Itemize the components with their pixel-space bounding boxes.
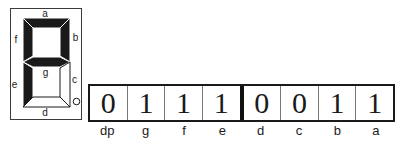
decimal-point (73, 98, 80, 105)
segment-g (23, 57, 70, 67)
bit-cell-a: 1 (356, 86, 393, 120)
bit-label-dp: dp (88, 123, 126, 138)
bit-register-table: 0 1 1 1 0 0 1 1 (88, 84, 395, 122)
bit-label-b: b (318, 123, 356, 138)
bit-cell-dp: 0 (90, 86, 128, 120)
bit-cell-g: 1 (128, 86, 166, 120)
segment-label-d: d (42, 107, 48, 118)
seven-segment-figure: a f b g e c d 0 1 1 1 0 0 1 1 dp g f e d… (0, 0, 400, 148)
segment-label-e: e (12, 79, 18, 90)
bit-label-f: f (165, 123, 203, 138)
bit-cell-f: 1 (165, 86, 203, 120)
bit-label-d: d (242, 123, 280, 138)
segment-label-g: g (43, 67, 49, 78)
bit-cell-d: 0 (244, 86, 282, 120)
segment-label-b: b (73, 32, 79, 43)
bit-label-e: e (203, 123, 241, 138)
segment-label-f: f (15, 34, 18, 45)
seven-segment-display: a f b g e c d (0, 0, 95, 140)
segment-label-c: c (72, 74, 77, 85)
bit-label-g: g (126, 123, 164, 138)
segment-label-a: a (42, 8, 48, 19)
bit-cell-b: 1 (319, 86, 357, 120)
bit-cell-c: 0 (281, 86, 319, 120)
bit-label-a: a (357, 123, 395, 138)
bit-label-c: c (280, 123, 318, 138)
bit-labels-row: dp g f e d c b a (88, 123, 395, 138)
bit-cell-e: 1 (203, 86, 244, 120)
